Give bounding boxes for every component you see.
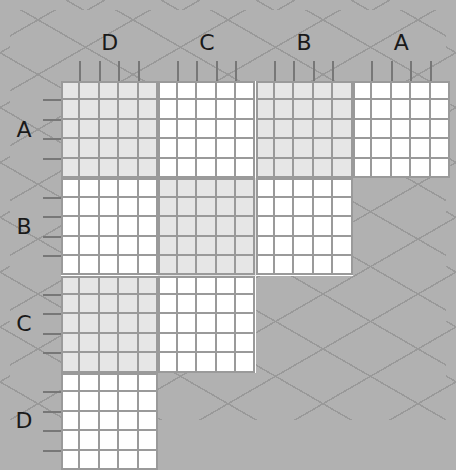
grid-cell[interactable] xyxy=(119,334,138,353)
grid-cell[interactable] xyxy=(100,451,119,470)
grid-cell[interactable] xyxy=(119,314,138,333)
grid-cell[interactable] xyxy=(61,412,80,431)
grid-cell[interactable] xyxy=(392,81,411,100)
grid-cell[interactable] xyxy=(197,295,216,314)
grid-cell[interactable] xyxy=(333,120,352,139)
grid-cell[interactable] xyxy=(236,139,255,158)
grid-cell[interactable] xyxy=(217,256,236,275)
grid-cell[interactable] xyxy=(333,139,352,158)
grid-cell[interactable] xyxy=(256,237,275,256)
grid-cell[interactable] xyxy=(294,159,313,178)
grid-cell[interactable] xyxy=(61,178,80,197)
grid-cell[interactable] xyxy=(178,334,197,353)
grid-cell[interactable] xyxy=(100,334,119,353)
grid-cell[interactable] xyxy=(139,431,158,450)
grid-cell[interactable] xyxy=(256,100,275,119)
grid-cell[interactable] xyxy=(333,159,352,178)
grid-cell[interactable] xyxy=(158,353,177,372)
grid-cell[interactable] xyxy=(178,100,197,119)
grid-cell[interactable] xyxy=(217,353,236,372)
grid-cell[interactable] xyxy=(100,373,119,392)
grid-cell[interactable] xyxy=(217,120,236,139)
grid-cell[interactable] xyxy=(333,198,352,217)
grid-cell[interactable] xyxy=(392,159,411,178)
grid-cell[interactable] xyxy=(61,295,80,314)
grid-cell[interactable] xyxy=(217,159,236,178)
grid-cell[interactable] xyxy=(275,217,294,236)
grid-cell[interactable] xyxy=(353,120,372,139)
grid-cell[interactable] xyxy=(80,431,99,450)
grid-cell[interactable] xyxy=(100,100,119,119)
grid-cell[interactable] xyxy=(217,100,236,119)
grid-cell[interactable] xyxy=(61,353,80,372)
grid-cell[interactable] xyxy=(275,198,294,217)
grid-cell[interactable] xyxy=(372,81,391,100)
grid-cell[interactable] xyxy=(100,81,119,100)
grid-cell[interactable] xyxy=(372,159,391,178)
grid-cell[interactable] xyxy=(217,334,236,353)
grid-cell[interactable] xyxy=(80,256,99,275)
grid-cell[interactable] xyxy=(139,120,158,139)
grid-cell[interactable] xyxy=(353,100,372,119)
grid-cell[interactable] xyxy=(100,353,119,372)
grid-cell[interactable] xyxy=(100,295,119,314)
grid-cell[interactable] xyxy=(139,100,158,119)
grid-cell[interactable] xyxy=(197,159,216,178)
grid-cell[interactable] xyxy=(217,217,236,236)
grid-cell[interactable] xyxy=(119,392,138,411)
grid-cell[interactable] xyxy=(314,159,333,178)
grid-cell[interactable] xyxy=(178,237,197,256)
grid-cell[interactable] xyxy=(139,334,158,353)
grid-cell[interactable] xyxy=(431,81,450,100)
grid-cell[interactable] xyxy=(256,159,275,178)
grid-cell[interactable] xyxy=(236,334,255,353)
grid-cell[interactable] xyxy=(61,237,80,256)
grid-cell[interactable] xyxy=(119,373,138,392)
grid-cell[interactable] xyxy=(392,139,411,158)
grid-cell[interactable] xyxy=(314,198,333,217)
grid-cell[interactable] xyxy=(333,100,352,119)
grid-cell[interactable] xyxy=(61,314,80,333)
grid-cell[interactable] xyxy=(139,217,158,236)
grid-cell[interactable] xyxy=(372,139,391,158)
grid-cell[interactable] xyxy=(197,100,216,119)
grid-cell[interactable] xyxy=(411,81,430,100)
grid-cell[interactable] xyxy=(197,217,216,236)
grid-cell[interactable] xyxy=(217,237,236,256)
grid-cell[interactable] xyxy=(80,353,99,372)
grid-cell[interactable] xyxy=(80,159,99,178)
grid-cell[interactable] xyxy=(139,373,158,392)
grid-cell[interactable] xyxy=(275,81,294,100)
grid-cell[interactable] xyxy=(100,237,119,256)
grid-cell[interactable] xyxy=(275,256,294,275)
grid-cell[interactable] xyxy=(333,178,352,197)
grid-cell[interactable] xyxy=(139,256,158,275)
grid-cell[interactable] xyxy=(158,100,177,119)
grid-cell[interactable] xyxy=(119,198,138,217)
grid-cell[interactable] xyxy=(178,314,197,333)
grid-cell[interactable] xyxy=(158,159,177,178)
grid-cell[interactable] xyxy=(139,178,158,197)
grid-cell[interactable] xyxy=(61,431,80,450)
grid-cell[interactable] xyxy=(119,353,138,372)
grid-cell[interactable] xyxy=(80,198,99,217)
grid-cell[interactable] xyxy=(314,217,333,236)
grid-cell[interactable] xyxy=(61,198,80,217)
grid-cell[interactable] xyxy=(139,237,158,256)
grid-cell[interactable] xyxy=(119,139,138,158)
grid-cell[interactable] xyxy=(139,139,158,158)
grid-cell[interactable] xyxy=(61,120,80,139)
grid-cell[interactable] xyxy=(80,295,99,314)
grid-cell[interactable] xyxy=(314,237,333,256)
grid-cell[interactable] xyxy=(178,217,197,236)
grid-cell[interactable] xyxy=(158,256,177,275)
grid-cell[interactable] xyxy=(256,81,275,100)
grid-cell[interactable] xyxy=(275,139,294,158)
grid-cell[interactable] xyxy=(236,100,255,119)
grid-cell[interactable] xyxy=(100,431,119,450)
grid-cell[interactable] xyxy=(431,100,450,119)
grid-cell[interactable] xyxy=(80,81,99,100)
grid-cell[interactable] xyxy=(314,120,333,139)
grid-cell[interactable] xyxy=(119,100,138,119)
grid-cell[interactable] xyxy=(139,198,158,217)
